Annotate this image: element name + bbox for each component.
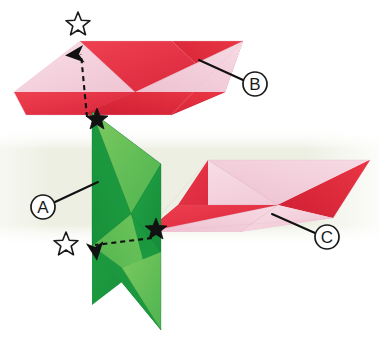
- label-a-text: A: [37, 198, 49, 217]
- diagram-canvas: A B C: [0, 0, 379, 350]
- origami-diagram-figure: A B C: [0, 0, 379, 350]
- label-b-text: B: [249, 75, 260, 94]
- label-c-text: C: [321, 228, 333, 247]
